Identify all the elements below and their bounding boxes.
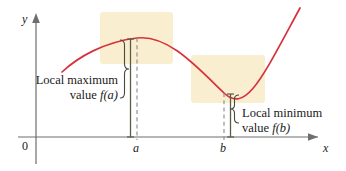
local-minimum-annotation: Local minimum value f(b)	[242, 106, 342, 136]
local-minimum-value-prefix: value	[242, 121, 272, 135]
x-tick-label-a: a	[133, 141, 139, 155]
local-maximum-annotation-line2: value f(a)	[24, 88, 118, 103]
y-axis-label: y	[22, 12, 27, 26]
local-minimum-annotation-line2: value f(b)	[242, 121, 342, 136]
local-maximum-annotation: Local maximum value f(a)	[24, 73, 118, 103]
local-maximum-value-prefix: value	[70, 88, 100, 102]
origin-label: 0	[22, 139, 28, 153]
x-tick-label-b: b	[220, 141, 226, 155]
local-minimum-value-function: f(b)	[272, 121, 290, 135]
figure-local-extrema: y x 0 a b Local maximum value f(a) Local…	[0, 0, 346, 171]
local-minimum-annotation-line1: Local minimum	[242, 106, 342, 121]
local-maximum-annotation-line1: Local maximum	[24, 73, 118, 88]
x-axis-label: x	[323, 141, 328, 155]
y-axis-arrowhead	[32, 13, 40, 23]
local-maximum-value-function: f(a)	[100, 88, 118, 102]
